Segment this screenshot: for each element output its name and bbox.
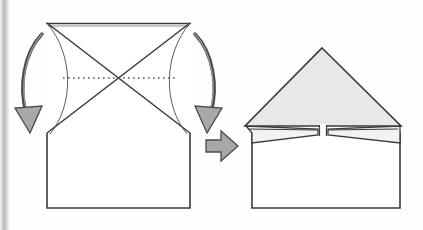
fold-arrow-right-shaft	[195, 34, 214, 112]
fold-arrow-left-shaft	[23, 34, 42, 112]
fold-arrow-left-head	[15, 106, 42, 133]
figure-canvas: Paper folding step: fold both upper side…	[0, 0, 423, 230]
center-notch	[320, 124, 327, 137]
folded-triangle-top	[245, 48, 401, 126]
lower-rectangle-fill	[252, 137, 400, 208]
panel-after	[245, 48, 401, 208]
transition-arrow	[206, 131, 238, 161]
fold-arrow-left	[15, 34, 42, 133]
fold-arrow-right	[195, 34, 222, 133]
panel-before	[15, 23, 222, 208]
right-block-arrow	[206, 131, 238, 161]
fold-arrow-right-head	[195, 106, 222, 133]
fold-diagram	[0, 0, 423, 230]
paper-outline	[47, 23, 190, 208]
